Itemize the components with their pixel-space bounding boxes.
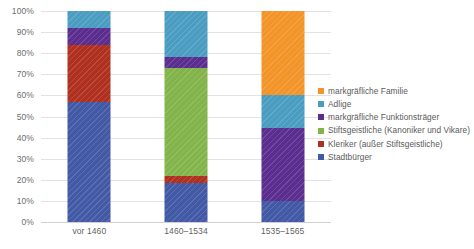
bar-segment[interactable]: [164, 183, 207, 222]
bar-group: [41, 11, 138, 222]
x-axis-tick-label: 1535–1565: [261, 226, 304, 236]
bar-segment[interactable]: [261, 201, 304, 222]
y-axis-tick-label: 70%: [17, 69, 34, 79]
y-axis-tick-label: 40%: [17, 133, 34, 143]
legend-swatch-icon: [318, 88, 324, 94]
bar-stack[interactable]: [68, 11, 111, 222]
y-axis-tick-label: 80%: [17, 48, 34, 58]
bar-segment[interactable]: [68, 45, 111, 102]
chart-legend: markgräfliche FamilieAdligemarkgräfliche…: [318, 84, 470, 164]
bar-segment[interactable]: [261, 11, 304, 95]
bar-segment[interactable]: [68, 11, 111, 28]
bar-stack[interactable]: [261, 11, 304, 222]
legend-item-label: Adlige: [328, 100, 351, 108]
legend-item[interactable]: Kleriker (außer Stiftsgeistliche): [318, 137, 470, 150]
bar-group: [234, 11, 331, 222]
legend-swatch-icon: [318, 154, 324, 160]
y-axis-tick-label: 60%: [17, 90, 34, 100]
legend-swatch-icon: [318, 128, 324, 134]
y-axis-tick-label: 50%: [17, 112, 34, 122]
legend-item-label: markgräfliche Familie: [328, 87, 408, 95]
legend-item[interactable]: Adlige: [318, 97, 470, 110]
y-axis-tick-label: 20%: [17, 175, 34, 185]
y-axis: 100%90%80%70%60%50%40%30%20%10%0%: [0, 0, 38, 249]
legend-item-label: Stiftsgeistliche (Kanoniker und Vikare): [328, 126, 470, 134]
plot-area: [41, 11, 331, 222]
legend-item[interactable]: Stiftsgeistliche (Kanoniker und Vikare): [318, 124, 470, 137]
x-axis-tick-label: 1460–1534: [164, 226, 207, 236]
bar-segment[interactable]: [261, 128, 304, 201]
legend-swatch-icon: [318, 114, 324, 120]
bar-segment[interactable]: [261, 95, 304, 128]
bar-segment[interactable]: [164, 68, 207, 176]
bar-segment[interactable]: [68, 28, 111, 45]
gridline: [41, 222, 331, 223]
bar-segment[interactable]: [164, 176, 207, 183]
legend-item[interactable]: markgräfliche Funktionsträger: [318, 111, 470, 124]
legend-item-label: Kleriker (außer Stiftsgeistliche): [328, 140, 443, 148]
y-axis-tick-label: 30%: [17, 154, 34, 164]
y-axis-tick-label: 0%: [22, 217, 35, 227]
y-axis-tick-label: 100%: [12, 6, 34, 16]
bar-segment[interactable]: [68, 102, 111, 222]
y-axis-tick-label: 90%: [17, 27, 34, 37]
legend-item[interactable]: Stadtbürger: [318, 150, 470, 163]
legend-item[interactable]: markgräfliche Familie: [318, 84, 470, 97]
legend-item-label: markgräfliche Funktionsträger: [328, 113, 439, 121]
bar-segment[interactable]: [164, 11, 207, 57]
bar-stack[interactable]: [164, 11, 207, 222]
y-axis-tick-label: 10%: [17, 196, 34, 206]
legend-item-label: Stadtbürger: [328, 153, 372, 161]
stacked-bar-chart: 100%90%80%70%60%50%40%30%20%10%0% vor 14…: [0, 0, 474, 249]
bar-segment[interactable]: [164, 57, 207, 68]
x-axis-tick-label: vor 1460: [72, 226, 106, 236]
legend-swatch-icon: [318, 141, 324, 147]
bar-group: [138, 11, 235, 222]
legend-swatch-icon: [318, 101, 324, 107]
